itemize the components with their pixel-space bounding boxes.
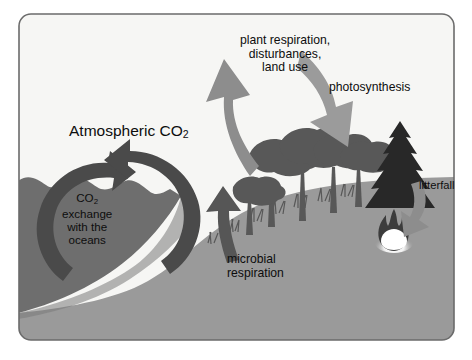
label-ocean-exchange-line-2: exchange [62,207,112,220]
label-microbial-respiration-line-2: respiration [227,267,284,281]
label-microbial-respiration-line-1: microbial [227,253,284,267]
label-atmospheric-co2: Atmospheric CO2 [69,122,189,141]
label-plant-respiration-line-2: disturbances, [240,48,330,62]
diagram-frame: Atmospheric CO2 plant respiration, distu… [18,13,455,341]
diagram-canvas [18,13,455,341]
carbon-cycle-diagram: Atmospheric CO2 plant respiration, distu… [0,0,472,360]
label-photosynthesis: photosynthesis [329,81,410,95]
label-ocean-exchange-line-1: CO2 [62,191,112,207]
label-plant-respiration-line-1: plant respiration, [240,34,330,48]
label-microbial-respiration: microbial respiration [227,253,284,280]
label-atmospheric-co2-subscript: 2 [183,128,189,140]
label-ocean-exchange-subscript: 2 [94,197,98,206]
label-ocean-exchange-line-4: oceans [62,233,112,246]
label-ocean-exchange-line-3: with the [62,220,112,233]
label-ocean-exchange: CO2 exchange with the oceans [62,191,112,246]
label-atmospheric-co2-text: Atmospheric CO [69,122,183,139]
label-plant-respiration-line-3: land use [240,61,330,75]
label-plant-respiration: plant respiration, disturbances, land us… [240,34,330,75]
label-litterfall: litterfall [419,179,454,192]
label-ocean-exchange-co2: CO [76,191,93,204]
